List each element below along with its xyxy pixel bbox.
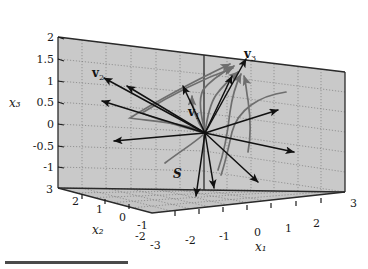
vector-label-v2: v2 [92, 66, 104, 82]
x2-tick-1: 1 [96, 203, 103, 216]
x3-tick-1p5: 1.5 [26, 53, 54, 66]
x2-tick-2: 2 [72, 195, 79, 208]
vector-label-v3: v3 [244, 47, 256, 63]
vector-label-v1-subscript: 1 [195, 112, 200, 121]
x3-tick-neg1: -1 [30, 161, 54, 174]
x2-tick-3: 3 [46, 183, 53, 196]
x2-axis-title: x₂ [92, 223, 104, 237]
x2-tick-neg3: -3 [150, 239, 161, 252]
vector-label-v3-subscript: 3 [251, 54, 256, 63]
x3-tick-1: 1 [36, 75, 54, 88]
x3-tick-0: 0 [36, 118, 54, 131]
x3-tick-0p5: 0.5 [26, 96, 54, 109]
x1-tick-neg2: -2 [185, 234, 196, 247]
x2-tick-0: 0 [119, 211, 126, 224]
figure-container: 2 1.5 1 0.5 0 -0.5 -1 x₃ 3 2 1 0 -1 -2 -… [0, 0, 368, 269]
x1-axis-title: x₁ [255, 240, 267, 254]
vector-label-v2-symbol: v [92, 66, 99, 80]
set-label-s: S [173, 167, 182, 181]
x1-tick-0: 0 [254, 226, 261, 239]
x1-tick-3: 3 [350, 197, 357, 210]
x3-tick-2: 2 [36, 31, 54, 44]
x3-axis-title: x₃ [9, 96, 21, 110]
vector-label-v1: v1 [188, 105, 200, 121]
x1-tick-2: 2 [313, 217, 320, 230]
x3-tick-neg0p5: -0.5 [22, 140, 54, 153]
x1-tick-1: 1 [285, 222, 292, 235]
x2-tick-neg2: -2 [135, 230, 146, 243]
x1-tick-neg1: -1 [219, 230, 230, 243]
vector-label-v1-symbol: v [188, 105, 195, 119]
vector-label-v3-symbol: v [244, 47, 251, 61]
scan-artifact-bar [5, 261, 128, 264]
panel-back-right [204, 55, 345, 192]
vector-label-v2-subscript: 2 [99, 73, 104, 82]
